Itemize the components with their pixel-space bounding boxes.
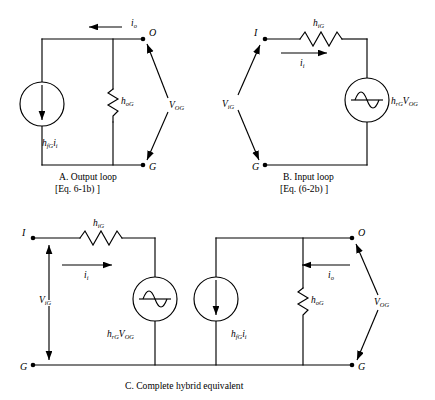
panel-c-node-g-left-label: G [20,361,27,372]
panel-b-node-g-dot [263,163,268,168]
panel-c-voltage-source-label: hrGVOG [107,329,134,340]
panel-a-output-current-label: io [131,18,137,29]
panel-c-caption-line1: C. Complete hybrid equivalent [125,380,244,391]
panel-b-node-i-label: I [253,27,258,38]
panel-b-input-loop [238,32,389,167]
panel-c-node-g-right-dot [350,363,355,368]
panel-b-input-current-label: ii [300,58,305,69]
panel-b-voltage-source-label: hrGVOG [391,96,418,107]
panel-a-caption-line1: A. Output loop [59,171,117,182]
panel-a-resistor-symbol [108,89,118,122]
panel-b-voltage-arrow-top [238,45,260,95]
panel-c-node-o-label: O [358,227,365,238]
panel-a-node-g-dot [141,163,146,168]
panel-c-input-voltage-label: ViG [39,295,52,306]
panel-c-output-voltage-arrow-top [356,244,378,295]
hybrid-equivalent-figure: io O G hoG hfGii VOG A. Output loop [Eq.… [0,0,435,400]
panel-b-node-g-label: G [252,161,259,172]
panel-c-input-resistor-symbol [80,231,122,245]
panel-c-output-voltage-label: VOG [374,297,389,308]
panel-b-input-voltage-label: ViG [222,99,235,110]
panel-b-caption-line1: B. Input loop [283,171,334,182]
panel-a-current-source-label: hfGii [42,138,58,149]
panel-c-output-resistor-symbol [298,288,308,365]
panel-c-node-g-left-dot [31,363,36,368]
panel-a-voltage-arrow-bottom [147,112,168,160]
panel-c-node-i-dot [31,236,36,241]
panel-a-resistor-label: hoG [121,96,134,107]
panel-a-node-g-label: G [149,161,156,172]
panel-c-current-source-label: hfGii [231,329,247,340]
panel-c-node-i-label: I [21,227,26,238]
panel-b-caption-line2: [Eq. (6-2b) ] [280,183,328,195]
panel-a-output-voltage-label: VOG [169,100,184,111]
panel-a-caption-line2: [Eq. 6-1b) ] [55,183,100,195]
panel-c-output-current-label: io [328,270,334,281]
panel-c-input-current-label: ii [84,270,89,281]
panel-c-node-g-right-label: G [358,361,365,372]
panel-b-voltage-arrow-bottom [238,110,259,160]
panel-b-resistor-symbol [300,32,342,46]
panel-c-output-voltage-arrow-bottom [357,310,378,360]
panel-c-complete-hybrid [31,231,378,367]
panel-b-resistor-label: hiG [313,18,325,29]
panel-a-voltage-arrow-top [147,44,168,98]
panel-c-node-o-dot [350,236,355,241]
panel-b-node-i-dot [263,37,268,42]
panel-a-node-o-label: O [149,27,156,38]
panel-c-output-resistor-label: hoG [311,295,324,306]
panel-a-node-o-dot [141,37,146,42]
panel-c-input-resistor-label: hiG [93,218,105,229]
